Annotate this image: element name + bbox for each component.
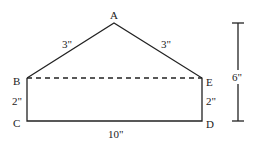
side-ab-label: 3" — [62, 38, 72, 50]
vertex-e-label: E — [206, 76, 213, 88]
vertex-b-label: B — [13, 75, 20, 87]
vertex-d-label: D — [206, 118, 214, 130]
pentagon-outline — [27, 23, 202, 121]
side-ed-label: 2" — [206, 95, 216, 107]
pentagon-diagram: A B C D E 3" 3" 2" 2" 10" 6" — [0, 0, 257, 144]
vertex-c-label: C — [13, 117, 20, 129]
side-bc-label: 2" — [12, 95, 22, 107]
vertex-a-label: A — [110, 9, 118, 21]
height-label: 6" — [232, 71, 242, 83]
side-ae-label: 3" — [161, 38, 171, 50]
side-cd-label: 10" — [108, 128, 124, 140]
